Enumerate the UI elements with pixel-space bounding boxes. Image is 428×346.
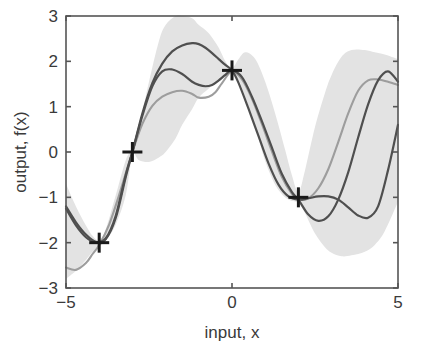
y-tick-label: 2: [49, 52, 58, 71]
y-tick-labels: 3210−1−2−3: [39, 7, 58, 298]
x-tick-label: 5: [393, 293, 402, 312]
y-tick-label: 0: [49, 143, 58, 162]
y-tick-label: −1: [39, 188, 58, 207]
x-tick-label: −5: [56, 293, 75, 312]
y-tick-label: 1: [49, 98, 58, 117]
plot-canvas: 3210−1−2−3 −505 input, x output, f(x): [0, 0, 428, 346]
gp-regression-figure: 3210−1−2−3 −505 input, x output, f(x): [0, 0, 428, 346]
y-axis-title: output, f(x): [11, 111, 30, 192]
y-tick-label: −3: [39, 279, 58, 298]
y-tick-label: 3: [49, 7, 58, 26]
x-tick-label: 0: [227, 293, 236, 312]
x-tick-labels: −505: [56, 293, 402, 312]
x-axis-title: input, x: [205, 323, 260, 342]
y-tick-label: −2: [39, 234, 58, 253]
